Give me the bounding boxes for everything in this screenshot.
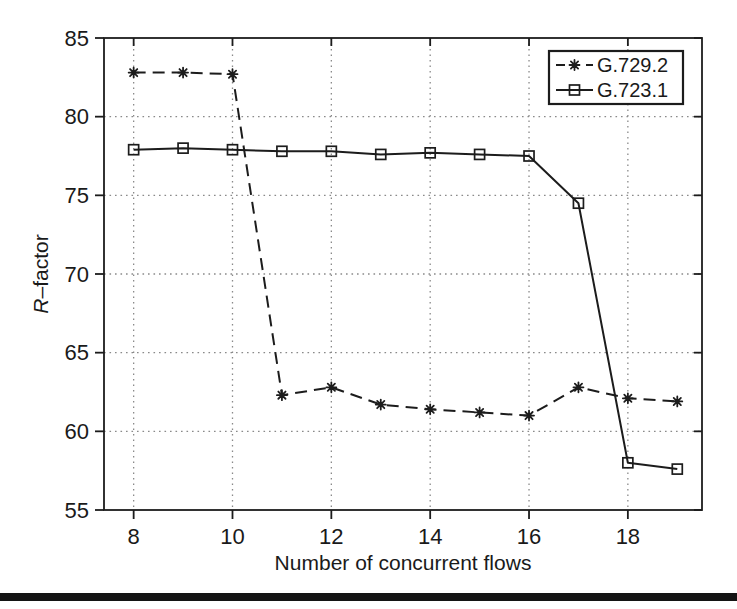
page-divider-rule: [0, 593, 737, 601]
asterisk-marker: [326, 382, 336, 392]
series-g-723-1: [129, 143, 683, 474]
x-tick-label: 8: [128, 524, 140, 549]
axis-ticks: [95, 38, 702, 519]
legend-box: G.729.2G.723.1: [549, 51, 683, 104]
grid-lines: [104, 38, 702, 510]
asterisk-marker: [178, 68, 188, 78]
x-tick-label: 10: [220, 524, 244, 549]
y-tick-label: 75: [65, 183, 89, 208]
asterisk-marker: [570, 60, 580, 70]
asterisk-marker: [623, 393, 633, 403]
y-tick-label: 60: [65, 419, 89, 444]
y-tick-label: 55: [65, 498, 89, 523]
legend-label: G.729.2: [597, 54, 668, 76]
series-g-729-2: [129, 68, 683, 421]
x-tick-label: 12: [319, 524, 343, 549]
y-tick-label: 70: [65, 262, 89, 287]
asterisk-marker: [524, 411, 534, 421]
series-line-g-729-2: [134, 73, 678, 416]
r-factor-line-chart: 8101214161855606570758085G.729.2G.723.1N…: [0, 0, 737, 585]
asterisk-marker: [227, 69, 237, 79]
asterisk-marker: [672, 396, 682, 406]
x-tick-label: 18: [616, 524, 640, 549]
asterisk-marker: [277, 390, 287, 400]
y-axis-label: R–factor: [29, 234, 52, 313]
asterisk-marker: [425, 404, 435, 414]
y-tick-label: 65: [65, 340, 89, 365]
series-line-g-723-1: [134, 148, 678, 469]
y-tick-label: 80: [65, 104, 89, 129]
x-tick-label: 16: [517, 524, 541, 549]
x-axis-label: Number of concurrent flows: [275, 551, 532, 574]
asterisk-marker: [129, 68, 139, 78]
x-tick-label: 14: [418, 524, 442, 549]
asterisk-marker: [573, 382, 583, 392]
scanned-figure-page: 8101214161855606570758085G.729.2G.723.1N…: [0, 0, 737, 609]
y-tick-label: 85: [65, 26, 89, 51]
asterisk-marker: [475, 407, 485, 417]
plot-border: [104, 38, 702, 510]
asterisk-marker: [376, 400, 386, 410]
legend-label: G.723.1: [597, 79, 668, 101]
